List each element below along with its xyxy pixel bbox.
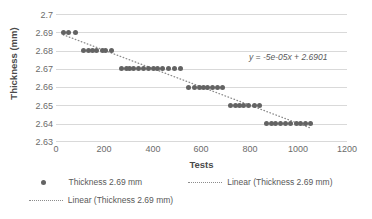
data-point [288, 121, 293, 126]
x-tick-label: 200 [84, 145, 124, 154]
data-point [66, 30, 71, 35]
data-point [283, 121, 288, 126]
x-tick-label: 600 [181, 145, 221, 154]
legend-dotted-line-icon [29, 200, 63, 201]
data-point [186, 85, 191, 90]
data-point [73, 30, 78, 35]
legend-label: Thickness 2.69 mm [68, 177, 142, 187]
data-point [220, 85, 225, 90]
legend-item-linear-2[interactable]: Linear (Thickness 2.69 mm) [29, 195, 173, 205]
x-tick-label: 800 [230, 145, 270, 154]
legend-item-thickness[interactable]: Thickness 2.69 mm [39, 177, 142, 187]
scatter-chart: 2.7 2.69 2.68 2.67 2.66 2.65 2.64 2.63 0… [0, 0, 372, 219]
legend-row: Linear (Thickness 2.69 mm) [0, 192, 372, 208]
data-point [94, 48, 99, 53]
x-tick-label: 0 [36, 145, 76, 154]
legend-row: Thickness 2.69 mm Linear (Thickness 2.69… [0, 174, 372, 190]
legend-label: Linear (Thickness 2.69 mm) [68, 195, 173, 205]
legend-dot-icon [41, 180, 46, 185]
trendline-equation: y = -5e-05x + 2.6901 [249, 52, 327, 62]
legend-label: Linear (Thickness 2.69 mm) [227, 177, 332, 187]
x-axis-title: Tests [56, 159, 347, 170]
x-tick-label: 1200 [327, 145, 367, 154]
legend-dotted-line-icon [188, 182, 222, 183]
data-point [192, 85, 197, 90]
x-tick-label: 1000 [278, 145, 318, 154]
legend-item-linear-1[interactable]: Linear (Thickness 2.69 mm) [188, 177, 332, 187]
y-axis-title: Thickness (mm) [8, 4, 19, 124]
x-tick-label: 400 [133, 145, 173, 154]
plot-area [56, 14, 347, 142]
